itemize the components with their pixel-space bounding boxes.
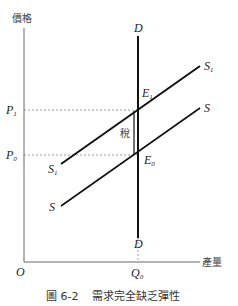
caption-number: 圖 6-2 <box>46 290 78 303</box>
demand-label-top: D <box>133 21 143 35</box>
y-axis-label: 價格 <box>12 12 32 24</box>
tax-label: 稅 <box>120 128 130 139</box>
p0-label: P0 <box>5 148 17 163</box>
supply-curve-s <box>61 108 200 206</box>
p1-label: P1 <box>5 103 17 118</box>
diagram-canvas: 價格 產量 O P1 P0 Q0 D D S1 S1 S S E1 E0 稅 圖… <box>0 0 238 306</box>
caption-title: 需求完全缺乏彈性 <box>92 289 180 303</box>
s1-label-right: S1 <box>204 59 214 74</box>
origin-label: O <box>16 265 25 279</box>
s-label-left: S <box>49 200 55 214</box>
s-label-right: S <box>204 101 210 115</box>
q0-label: Q0 <box>131 266 144 281</box>
s1-label-left: S1 <box>48 162 58 177</box>
e0-label: E0 <box>143 153 155 168</box>
demand-label-bottom: D <box>133 237 143 251</box>
e1-label: E1 <box>141 86 153 101</box>
x-axis-label: 產量 <box>202 256 222 268</box>
supply-curve-s1 <box>61 66 200 164</box>
